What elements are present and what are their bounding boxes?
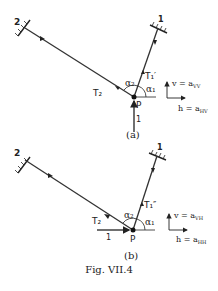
- point-p: [132, 95, 137, 100]
- support-1-label: 1: [157, 143, 163, 152]
- support-2-hatch-icon: [15, 157, 30, 173]
- figure-diagram: 2 1 T₂ T₁′ α₂ α₁ P 1 v = aVV h = aHV (a): [0, 0, 218, 291]
- panel-b-label: (b): [124, 250, 138, 261]
- panel-b: 2 1 T₂ T₁″ α₂ α₁ P 1 v = aVH h = aHH (b): [14, 143, 207, 261]
- angle-2-label: α₂: [125, 78, 135, 88]
- support-2-label: 2: [14, 17, 20, 27]
- panel-a: 2 1 T₂ T₁′ α₂ α₁ P 1 v = aVV h = aHV (a): [14, 15, 208, 140]
- angle-1-label: α₁: [145, 217, 155, 227]
- tension-1-label: T₁′: [144, 71, 156, 81]
- tension-1-label: T₁″: [143, 200, 157, 210]
- point-p-label: P: [136, 100, 142, 110]
- point-p: [131, 228, 136, 233]
- angle-1-label: α₁: [146, 84, 156, 94]
- point-p-label: P: [130, 234, 136, 244]
- h-axis-label: h = aHH: [176, 235, 207, 245]
- h-axis-label: h = aHV: [178, 104, 208, 114]
- v-axis-label: v = aVH: [173, 211, 204, 221]
- angle-2-label: α₂: [124, 210, 134, 220]
- tension-2-label: T₂: [91, 216, 101, 226]
- rope-2: [25, 160, 133, 230]
- input-label: 1: [136, 115, 141, 124]
- support-1-label: 1: [158, 15, 164, 24]
- input-label: 1: [106, 233, 111, 242]
- tension-2-label: T₂: [92, 88, 102, 98]
- figure-caption: Fig. VII.4: [0, 264, 218, 275]
- panel-a-label: (a): [126, 129, 140, 140]
- v-axis-label: v = aVV: [171, 79, 201, 89]
- support-2-label: 2: [14, 148, 20, 158]
